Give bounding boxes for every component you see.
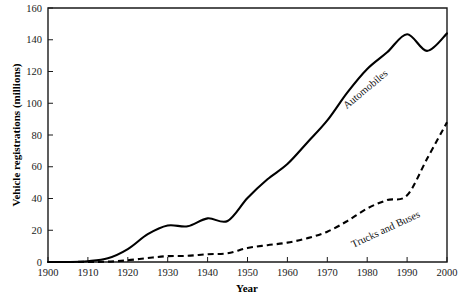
x-tick-label: 1940 bbox=[197, 267, 218, 278]
x-tick-labels: 1900191019201930194019501960197019801990… bbox=[38, 267, 458, 278]
annotation-trucks-and-buses: Trucks and Buses bbox=[350, 208, 422, 249]
x-axis-title: Year bbox=[236, 282, 258, 294]
y-axis-title-group: Vehicle registrations (millions) bbox=[10, 63, 23, 206]
y-tick-label: 140 bbox=[26, 34, 42, 45]
x-tick-label: 2000 bbox=[437, 267, 458, 278]
y-tick-label: 80 bbox=[32, 130, 43, 141]
x-tick-label: 1950 bbox=[237, 267, 258, 278]
y-tick-label: 0 bbox=[37, 257, 42, 268]
x-tick-label: 1970 bbox=[317, 267, 338, 278]
y-tick-label: 40 bbox=[32, 193, 43, 204]
y-axis-ticks bbox=[48, 8, 53, 262]
series-trucks-and-buses-line bbox=[48, 122, 447, 262]
y-tick-label: 20 bbox=[32, 225, 43, 236]
vehicle-registrations-chart: 020406080100120140160 190019101920193019… bbox=[0, 0, 469, 308]
chart-canvas: 020406080100120140160 190019101920193019… bbox=[0, 0, 469, 308]
y-tick-label: 120 bbox=[26, 66, 42, 77]
x-tick-label: 1930 bbox=[157, 267, 178, 278]
y-tick-label: 100 bbox=[26, 98, 42, 109]
y-tick-label: 160 bbox=[26, 3, 42, 14]
y-axis-title: Vehicle registrations (millions) bbox=[10, 63, 23, 206]
x-tick-label: 1910 bbox=[77, 267, 98, 278]
x-tick-label: 1960 bbox=[277, 267, 298, 278]
x-tick-label: 1900 bbox=[38, 267, 59, 278]
x-tick-label: 1980 bbox=[357, 267, 378, 278]
y-tick-labels: 020406080100120140160 bbox=[26, 3, 42, 268]
x-tick-label: 1990 bbox=[397, 267, 418, 278]
y-tick-label: 60 bbox=[32, 161, 43, 172]
annotation-automobiles: Automobiles bbox=[341, 68, 390, 111]
x-tick-label: 1920 bbox=[117, 267, 138, 278]
